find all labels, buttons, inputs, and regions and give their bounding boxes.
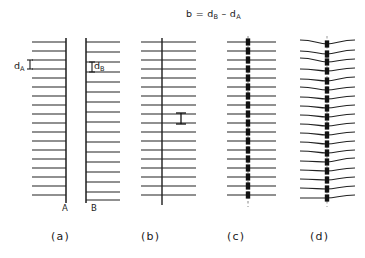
dislocation-core	[325, 185, 329, 192]
panel-b	[141, 38, 196, 205]
dislocation-core	[246, 74, 250, 81]
dislocation-core	[325, 86, 329, 93]
panel-c-dislocations	[246, 38, 250, 198]
dislocation-core	[246, 101, 250, 108]
dislocation-core	[325, 194, 329, 201]
dislocation-core	[246, 56, 250, 63]
figure-canvas	[0, 0, 365, 258]
dislocation-core	[246, 92, 250, 99]
spacing-gauge-b	[89, 62, 95, 72]
spacing-gauge-a	[27, 60, 33, 69]
dislocation-core	[246, 137, 250, 144]
dislocation-core	[246, 119, 250, 126]
dislocation-core	[325, 113, 329, 120]
crystal-b-lattice-planes	[86, 42, 120, 200]
dislocation-core	[325, 131, 329, 138]
dislocation-core	[246, 38, 250, 45]
panel-b-lattice-planes	[141, 42, 196, 195]
dislocation-core	[325, 176, 329, 183]
panel-a	[27, 38, 120, 203]
dislocation-core	[246, 110, 250, 117]
dislocation-core	[325, 104, 329, 111]
dislocation-core	[325, 140, 329, 147]
crystal-a-lattice-planes	[32, 42, 66, 195]
dislocation-core	[246, 164, 250, 171]
burgers-vector-gauge	[176, 113, 186, 124]
dislocation-core	[246, 47, 250, 54]
dislocation-core	[325, 67, 329, 74]
dislocation-core	[325, 95, 329, 102]
dislocation-core	[325, 77, 329, 84]
dislocation-boundary-figure: b = dB – dA dA dB A B (a) (b) (c) (d)	[0, 0, 365, 258]
dislocation-core	[325, 122, 329, 129]
dislocation-core	[246, 155, 250, 162]
dislocation-core	[246, 146, 250, 153]
panel-c	[227, 36, 276, 207]
dislocation-core	[325, 50, 329, 57]
dislocation-core	[325, 40, 329, 47]
dislocation-core	[246, 83, 250, 90]
dislocation-core	[325, 167, 329, 174]
dislocation-core	[246, 191, 250, 198]
dislocation-core	[325, 58, 329, 65]
dislocation-core	[246, 65, 250, 72]
panel-d	[300, 36, 355, 207]
dislocation-core	[325, 158, 329, 165]
dislocation-core	[246, 182, 250, 189]
dislocation-core	[246, 128, 250, 135]
panel-c-lattice-planes	[227, 42, 276, 195]
dislocation-core	[325, 149, 329, 156]
dislocation-core	[246, 173, 250, 180]
